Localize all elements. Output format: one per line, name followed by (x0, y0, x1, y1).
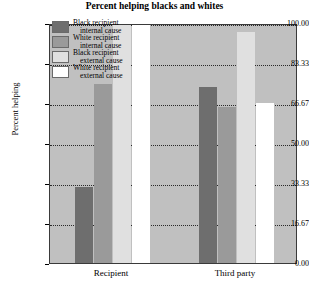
y-axis-tick-mark (45, 64, 49, 65)
bar (199, 87, 217, 263)
bar (237, 32, 255, 263)
y-axis-label: Percent helping (10, 54, 20, 164)
chart-root: Percent helping blacks and whites 0.0016… (0, 0, 309, 291)
y-axis-tick-label: 16.67 (263, 220, 309, 228)
x-axis-tick-label: Third party (185, 268, 285, 278)
y-axis-tick-mark (45, 104, 49, 105)
y-axis-tick-label: 33.33 (263, 180, 309, 188)
bar (75, 187, 93, 263)
chart-legend: Black recipientinternal causeWhite recip… (52, 20, 176, 80)
legend-swatch (52, 66, 69, 78)
y-axis-tick-label: 50.00 (263, 140, 309, 148)
y-axis-tick-mark (45, 264, 49, 265)
legend-label: Black recipientinternal cause (73, 19, 121, 34)
bar (94, 84, 112, 263)
y-axis-tick-mark (45, 24, 49, 25)
y-axis-tick-mark (45, 224, 49, 225)
legend-swatch (52, 21, 69, 33)
y-axis-tick-label: 66.67 (263, 100, 309, 108)
bar (218, 107, 236, 263)
legend-item: White recipientexternal cause (52, 65, 176, 80)
y-axis-tick-label: 83.33 (263, 60, 309, 68)
chart-title: Percent helping blacks and whites (0, 1, 309, 11)
legend-swatch (52, 36, 69, 48)
x-axis-tick-label: Recipient (61, 268, 161, 278)
y-axis-tick-mark (45, 144, 49, 145)
y-axis-tick-mark (45, 184, 49, 185)
legend-label: Black recipientexternal cause (73, 49, 123, 64)
legend-label: White recipientexternal cause (73, 64, 123, 79)
legend-swatch (52, 51, 69, 63)
legend-label: White recipientinternal cause (73, 34, 121, 49)
y-axis-tick-label: 100.00 (263, 20, 309, 28)
y-axis-tick-label: 0.00 (263, 260, 309, 268)
